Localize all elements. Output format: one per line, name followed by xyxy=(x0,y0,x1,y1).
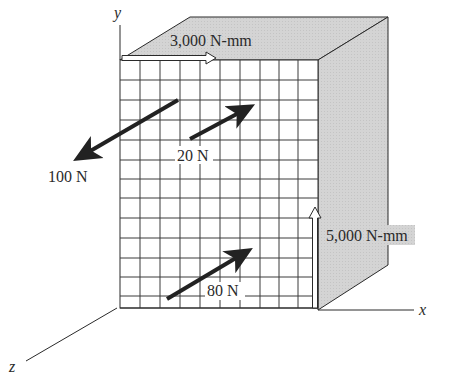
force-20n-label: 20 N xyxy=(177,147,209,164)
statics-diagram: y x z 3,000 N-mm 5,000 N-mm 100 N 20 N 8… xyxy=(0,0,453,391)
y-axis-label: y xyxy=(112,4,122,22)
force-80n-label: 80 N xyxy=(207,282,239,299)
z-axis xyxy=(26,308,117,361)
side-moment-label: 5,000 N-mm xyxy=(326,227,408,244)
z-axis-label: z xyxy=(8,358,16,375)
x-axis-label: x xyxy=(418,301,426,318)
block-right-face xyxy=(318,17,388,310)
top-moment-label: 3,000 N-mm xyxy=(170,32,252,49)
force-100n-label: 100 N xyxy=(48,168,88,185)
block-front-face xyxy=(120,60,318,308)
